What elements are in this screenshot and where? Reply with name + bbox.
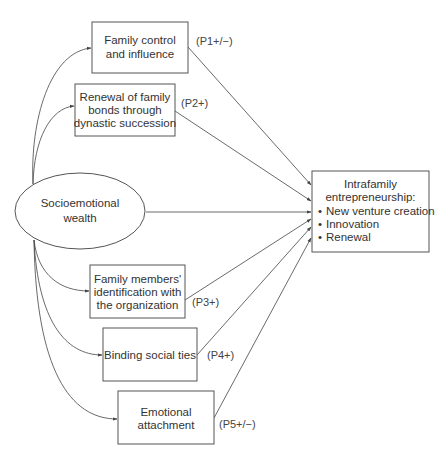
outcome-title-line: entrepreneurship: <box>325 191 415 203</box>
proposition-label-p5: (P5+/−) <box>219 418 256 430</box>
node-family-control: Family control and influence <box>92 22 188 73</box>
edge-swe-to-renewal-bonds <box>33 106 74 184</box>
proposition-label-p3: (P3+) <box>192 296 219 308</box>
proposition-label-p4: (P4+) <box>207 349 234 361</box>
node-binding-ties: Binding social ties <box>103 328 197 381</box>
node-label-line: Renewal of family <box>80 91 171 103</box>
node-socioemotional-wealth: Socioemotional wealth <box>15 173 145 249</box>
node-renewal-bonds: Renewal of family bonds through dynastic… <box>74 84 176 136</box>
outcome-bullet-item: Renewal <box>326 231 371 243</box>
outcome-bullet-item: Innovation <box>326 218 379 230</box>
node-label-line: Family members' <box>94 273 181 285</box>
node-intrafamily-entrepreneurship: Intrafamily entrepreneurship: • New vent… <box>312 171 435 252</box>
node-label-line: and influence <box>106 48 174 60</box>
edge-family-control-to-outcome <box>188 47 311 185</box>
node-label-line: Emotional <box>140 406 191 418</box>
node-identification: Family members' identification with the … <box>90 265 185 318</box>
node-label-line: bonds through <box>88 104 162 116</box>
bullet-icon: • <box>318 218 322 230</box>
edge-identification-to-outcome <box>185 219 311 300</box>
node-label-line: identification with <box>94 286 182 298</box>
outcome-bullet-item: New venture creation <box>326 205 435 217</box>
node-label-line: dynastic succession <box>74 117 176 129</box>
edge-emotional-attachment-to-outcome <box>214 238 311 418</box>
node-label-line: Socioemotional <box>41 197 120 209</box>
bullet-icon: • <box>318 205 322 217</box>
diagram-canvas: Socioemotional wealth Family control and… <box>0 0 443 462</box>
node-label-line: wealth <box>62 212 96 224</box>
edge-renewal-bonds-to-outcome <box>175 111 311 201</box>
node-label-line: Family control <box>104 34 176 46</box>
proposition-label-p1: (P1+/−) <box>196 35 233 47</box>
proposition-label-p2: (P2+) <box>181 97 208 109</box>
outcome-title-line: Intrafamily <box>344 178 397 190</box>
node-label-line: attachment <box>138 419 196 431</box>
node-label-line: Binding social ties <box>104 349 196 361</box>
bullet-icon: • <box>318 231 322 243</box>
edge-binding-ties-to-outcome <box>197 227 311 355</box>
node-label-line: the organization <box>97 299 179 311</box>
node-emotional-attachment: Emotional attachment <box>118 391 214 444</box>
